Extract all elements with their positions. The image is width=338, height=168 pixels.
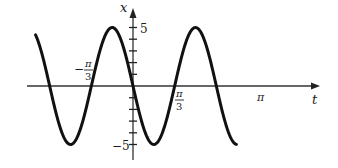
- tick-label-neg-pi-3-num: π: [84, 58, 92, 69]
- tick-label-pi-3-den: 3: [176, 101, 182, 112]
- y-tick-label-5: 5: [140, 22, 148, 36]
- tick-label-pi: π: [256, 91, 265, 104]
- x-axis-arrow-icon: [130, 8, 137, 18]
- x-axis-label: x: [120, 0, 128, 15]
- sinusoid-chart: x t 5 −5 − π 3 π 3 π: [0, 0, 338, 168]
- tick-label-neg-pi-3-den: 3: [85, 71, 91, 82]
- tick-label-neg-pi-3-sign: −: [74, 62, 84, 76]
- t-axis-label: t: [312, 92, 318, 107]
- y-tick-label-neg5: −5: [112, 139, 130, 153]
- tick-label-pi-3-num: π: [175, 88, 183, 99]
- t-axis-arrow-icon: [311, 83, 320, 90]
